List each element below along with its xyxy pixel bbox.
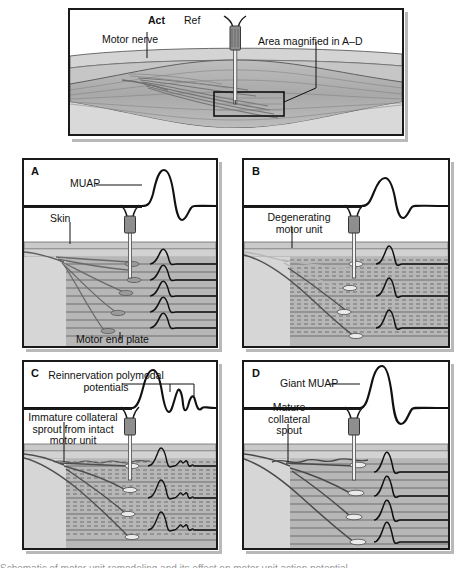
- panel-a-shadow: [26, 349, 222, 352]
- panel-a-illustration: [24, 160, 216, 346]
- panel-a-label-end-plate: Motor end plate: [76, 334, 149, 346]
- panel-d-waveform-label: Giant MUAP: [280, 378, 338, 390]
- panel-c: C Reinnervation polymodal potentials Imm…: [22, 360, 218, 550]
- panel-d-shadow-right: [451, 364, 454, 554]
- panel-b-letter: B: [252, 165, 260, 177]
- figure-root: Act Ref Motor nerve Area magnified in A–…: [0, 0, 471, 576]
- panel-c-shadow-right: [219, 364, 222, 554]
- panel-c-shadow: [26, 551, 222, 554]
- panel-a-letter: A: [31, 165, 39, 177]
- panel-d-illustration: [244, 362, 448, 548]
- panel-d-letter: D: [252, 367, 260, 379]
- top-panel-shadow-right: [405, 12, 408, 142]
- label-act: Act: [148, 15, 165, 27]
- panel-a-shadow-right: [219, 162, 222, 352]
- panel-b-shadow: [246, 349, 454, 352]
- panel-b-illustration: [244, 160, 448, 346]
- panel-d-shadow: [246, 551, 454, 554]
- overview-illustration: [70, 10, 402, 134]
- panel-d-label-sprout: Mature collateral spout: [256, 402, 322, 437]
- overview-panel: Act Ref Motor nerve Area magnified in A–…: [68, 8, 404, 136]
- caption-clip-mask: [0, 568, 471, 576]
- label-area-magnified: Area magnified in A–D: [258, 36, 362, 48]
- panel-a-waveform-label: MUAP: [70, 178, 100, 190]
- panel-c-waveform-label: Reinnervation polymodal potentials: [46, 370, 166, 393]
- panel-a: A MUAP Skin Motor end plate: [22, 158, 218, 348]
- panel-b: B Degenerating motor unit: [242, 158, 450, 348]
- panel-b-label-degenerating: Degenerating motor unit: [256, 212, 342, 235]
- label-ref: Ref: [184, 15, 200, 27]
- panel-c-letter: C: [31, 367, 39, 379]
- panel-b-shadow-right: [451, 162, 454, 352]
- panel-a-label-skin: Skin: [50, 213, 70, 225]
- panel-c-label-sprout: Immature collateral sprout from intact m…: [22, 412, 126, 447]
- top-panel-shadow: [72, 139, 408, 142]
- label-motor-nerve: Motor nerve: [102, 34, 158, 46]
- panel-d: D Giant MUAP Mature collateral spout: [242, 360, 450, 550]
